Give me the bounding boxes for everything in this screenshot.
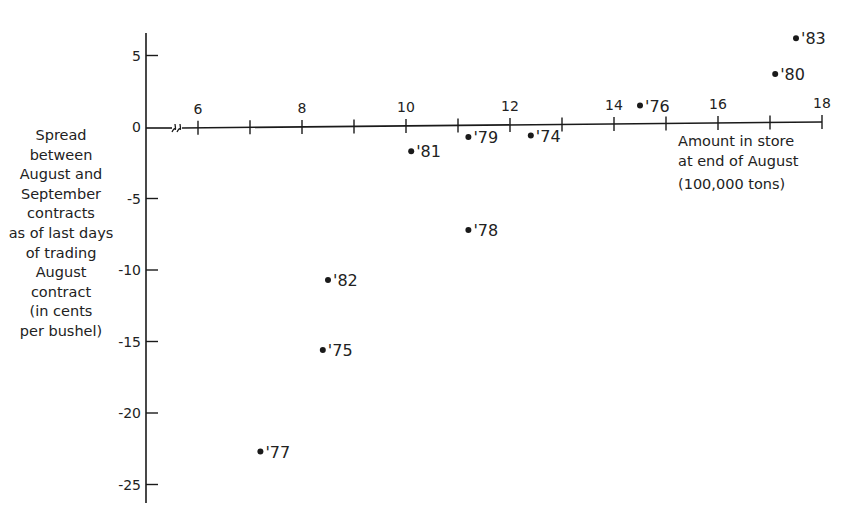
y-axis-label-line: contracts xyxy=(0,204,122,224)
data-point: '80 xyxy=(772,65,805,84)
x-tick-label: 14 xyxy=(605,97,623,113)
point-label: '74 xyxy=(536,127,561,146)
y-tick-label: -5 xyxy=(127,191,141,207)
point-marker xyxy=(637,103,643,109)
point-label: '79 xyxy=(473,128,498,147)
x-axis-label-line: at end of August xyxy=(678,152,853,172)
y-axis-label-line: contract xyxy=(0,283,122,303)
y-axis-label-line: per bushel) xyxy=(0,322,122,342)
y-axis-ticks: 50-5-10-15-20-25 xyxy=(118,48,158,493)
scatter-chart: 681012141618 50-5-10-15-20-25 '83'80'76'… xyxy=(0,0,853,530)
plot-area: 681012141618 50-5-10-15-20-25 '83'80'76'… xyxy=(0,0,853,530)
data-point: '82 xyxy=(325,271,358,290)
x-axis-label-line: Amount in store xyxy=(678,132,853,152)
data-point: '76 xyxy=(637,97,670,116)
y-axis-label-line: between xyxy=(0,146,122,166)
data-points: '83'80'76'81'79'74'78'82'75'77 xyxy=(257,29,825,461)
y-axis-label-line: August and xyxy=(0,165,122,185)
point-label: '83 xyxy=(801,29,826,48)
x-axis-label: Amount in store at end of August (100,00… xyxy=(678,132,853,195)
point-label: '75 xyxy=(328,341,353,360)
x-tick-label: 16 xyxy=(709,96,727,112)
x-tick-label: 12 xyxy=(501,98,519,114)
data-point: '81 xyxy=(408,142,441,161)
axis-break-icon xyxy=(172,124,181,132)
point-label: '80 xyxy=(780,65,805,84)
x-axis-unit: (100,000 tons) xyxy=(678,175,853,195)
x-tick-label: 18 xyxy=(813,95,831,111)
y-tick-label: 5 xyxy=(132,48,141,64)
y-axis-label-line: September xyxy=(0,185,122,205)
x-axis-ticks: 681012141618 xyxy=(194,95,831,135)
y-tick-label: -20 xyxy=(118,405,141,421)
point-marker xyxy=(325,277,331,283)
point-label: '77 xyxy=(265,443,290,462)
x-tick-label: 6 xyxy=(194,101,203,117)
data-point: '77 xyxy=(257,443,290,462)
point-marker xyxy=(465,134,471,140)
point-label: '76 xyxy=(645,97,670,116)
x-axis-line xyxy=(182,122,822,128)
y-axis-label-line: Spread xyxy=(0,126,122,146)
data-point: '75 xyxy=(320,341,353,360)
point-marker xyxy=(408,148,414,154)
y-tick-label: -25 xyxy=(118,477,141,493)
y-axis-label-line: of trading xyxy=(0,244,122,264)
y-tick-label: 0 xyxy=(132,119,141,135)
point-marker xyxy=(528,133,534,139)
y-axis-label-line: August xyxy=(0,263,122,283)
y-axis-label-line: as of last days xyxy=(0,224,122,244)
data-point: '74 xyxy=(528,127,561,146)
point-label: '81 xyxy=(416,142,441,161)
point-marker xyxy=(793,35,799,41)
y-axis-label: Spread between August and September cont… xyxy=(0,126,122,342)
y-axis-label-line: (in cents xyxy=(0,302,122,322)
point-marker xyxy=(320,347,326,353)
data-point: '79 xyxy=(465,128,498,147)
data-point: '83 xyxy=(793,29,826,48)
x-tick-label: 10 xyxy=(397,99,415,115)
point-label: '78 xyxy=(473,221,498,240)
point-marker xyxy=(465,227,471,233)
x-tick-label: 8 xyxy=(298,100,307,116)
data-point: '78 xyxy=(465,221,498,240)
point-marker xyxy=(772,71,778,77)
point-marker xyxy=(257,449,263,455)
point-label: '82 xyxy=(333,271,358,290)
